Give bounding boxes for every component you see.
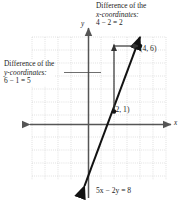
axes: [30, 28, 171, 198]
measurement-arrows: [114, 45, 140, 112]
point-label-4-6: (4, 6): [140, 44, 156, 53]
annotation-y-difference: Difference of the y-coordinates: 6 − 1 =…: [4, 60, 54, 86]
point-label-2-1: (2, 1): [113, 105, 129, 114]
equation-label: 5x − 2y = 8: [96, 186, 131, 195]
annotation-x-difference-line3: 4 − 2 = 2: [96, 19, 146, 28]
coordinate-plane-graphic: [0, 0, 182, 205]
annotation-y-difference-line3: 6 − 1 = 5: [4, 77, 54, 86]
annotation-x-difference: Difference of the x-coordinates: 4 − 2 =…: [96, 2, 146, 28]
x-axis-label: x: [174, 119, 177, 127]
y-axis-label: y: [81, 20, 84, 28]
figure-canvas: Difference of the x-coordinates: 4 − 2 =…: [0, 0, 182, 205]
